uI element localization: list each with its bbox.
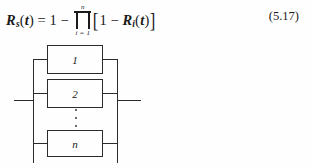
constant-one: 1 xyxy=(49,12,56,29)
equation-row: Rs(t) = 1 − n i = 1 [ 1 − Ri(t) ] (5.17) xyxy=(0,0,311,38)
pi-left-leg xyxy=(76,11,78,29)
left-bus-wire xyxy=(33,59,34,163)
component-index-subscript: i xyxy=(132,18,135,29)
bracket-open: [ xyxy=(93,12,99,29)
output-lead-wire xyxy=(117,100,141,101)
equation-figure-page: Rs(t) = 1 − n i = 1 [ 1 − Ri(t) ] (5.17) xyxy=(0,0,311,167)
equation-number: (5.17) xyxy=(269,9,299,24)
ellipsis-dot-2 xyxy=(75,117,77,119)
branch-n-right-connector xyxy=(102,143,118,144)
component-block-n: n xyxy=(47,130,103,157)
product-pi-glyph xyxy=(74,11,91,29)
minus-sign: − xyxy=(57,12,72,29)
component-block-n-label: n xyxy=(72,138,78,150)
equals-sign: = xyxy=(34,12,49,29)
right-bus-wire xyxy=(117,59,118,163)
input-lead-wire xyxy=(14,100,34,101)
branch-2-right-connector xyxy=(102,93,118,94)
ellipsis-dot-1 xyxy=(75,109,77,111)
inner-minus-sign: − xyxy=(107,12,122,29)
bracket-close: ] xyxy=(150,12,156,29)
component-reliability-symbol: R xyxy=(122,12,132,29)
branch-1-right-connector xyxy=(102,59,118,60)
branch-1-left-connector xyxy=(33,59,48,60)
component-block-2-label: 2 xyxy=(72,88,78,100)
product-upper-limit: n xyxy=(81,4,85,11)
inner-paren-close: ) xyxy=(144,12,149,29)
reliability-symbol: R xyxy=(6,12,16,29)
parallel-block-diagram: 1 2 n xyxy=(0,38,311,167)
component-block-1: 1 xyxy=(47,45,103,74)
reliability-subscript-s: s xyxy=(16,18,20,29)
component-block-1-label: 1 xyxy=(72,54,78,66)
ellipsis-dot-3 xyxy=(75,125,77,127)
inner-constant-one: 1 xyxy=(100,12,107,29)
pi-right-leg xyxy=(88,11,90,29)
component-block-2: 2 xyxy=(47,79,103,108)
branch-2-left-connector xyxy=(33,93,48,94)
product-lower-limit: i = 1 xyxy=(75,30,90,38)
product-operator: n i = 1 xyxy=(74,4,91,38)
branch-n-left-connector xyxy=(33,143,48,144)
vertical-ellipsis-icon xyxy=(72,109,80,127)
equation-5-17: Rs(t) = 1 − n i = 1 [ 1 − Ri(t) ] xyxy=(6,4,157,38)
